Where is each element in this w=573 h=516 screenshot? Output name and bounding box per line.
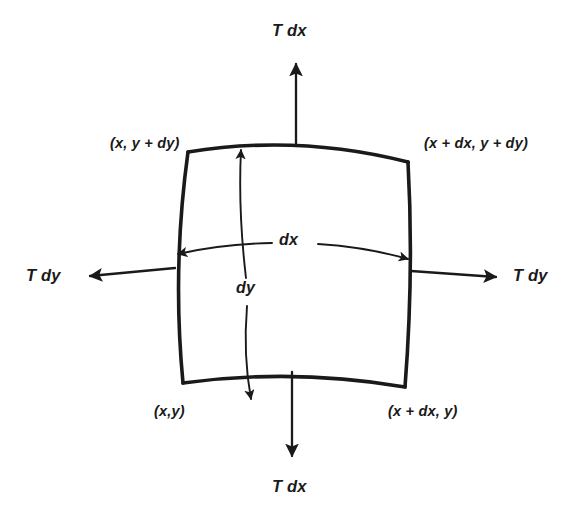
force-label-bottom: T dx (272, 478, 307, 495)
corner-label-bottom-right: (x + dx, y) (388, 404, 458, 419)
force-arrow-right-tdy (411, 271, 496, 277)
element-edge-right (405, 162, 410, 387)
corner-label-top-right: (x + dx, y + dy) (424, 136, 528, 151)
dx-arrow-right-segment (318, 244, 408, 259)
dy-arrow-lower-segment (246, 306, 251, 399)
figure-line-art (0, 0, 573, 516)
membrane-element-figure: T dx T dx T dy T dy (x, y + dy) (x + dx,… (0, 0, 573, 516)
force-label-left: T dy (26, 267, 61, 284)
corner-label-top-left: (x, y + dy) (110, 136, 180, 151)
force-label-top: T dx (272, 22, 307, 39)
membrane-element-outline (179, 145, 411, 387)
force-label-right: T dy (513, 267, 548, 284)
force-arrows (90, 64, 496, 456)
element-edge-left (179, 152, 188, 383)
dy-arrow-upper-segment (240, 150, 246, 278)
element-edge-bottom (183, 376, 405, 387)
dimension-arrow-dy (240, 150, 251, 399)
force-arrow-left-tdy (90, 268, 175, 276)
dimension-label-dy: dy (232, 280, 259, 296)
corner-label-bottom-left: (x,y) (154, 404, 185, 419)
element-edge-top (188, 145, 408, 162)
dimension-label-dx: dx (275, 232, 302, 248)
dx-arrow-left-segment (178, 243, 272, 254)
